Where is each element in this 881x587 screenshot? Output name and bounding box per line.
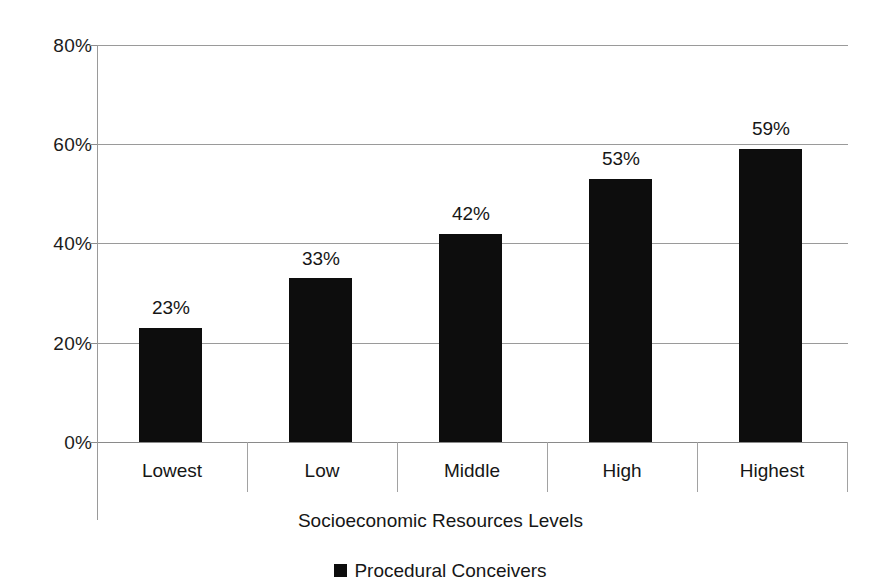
x-category-label-middle: Middle [397,461,547,480]
y-tick-label-0: 0% [20,433,92,452]
bar-value-highest: 59% [721,119,821,138]
chart-legend: Procedural Conceivers [0,561,881,580]
y-tick-label-80: 80% [20,36,92,55]
bar-value-high: 53% [571,149,671,168]
bar-highest [739,149,802,442]
bar-value-low: 33% [271,249,371,268]
legend-swatch-icon [334,564,347,577]
bar-middle [439,234,502,442]
bar-low [289,278,352,442]
y-tick-label-60: 60% [20,135,92,154]
x-axis-title: Socioeconomic Resources Levels [0,511,881,530]
gridline-60 [97,144,848,145]
bar-value-middle: 42% [421,204,521,223]
bar-chart: 80% 60% 40% 20% 0% 23% 33% 42% 53% 59% L… [0,0,881,587]
y-tick-label-20: 20% [20,334,92,353]
bar-lowest [139,328,202,442]
bar-high [589,179,652,442]
y-tick-label-40: 40% [20,234,92,253]
bar-value-lowest: 23% [121,298,221,317]
legend-item-label: Procedural Conceivers [354,561,546,580]
gridline-80 [97,45,848,46]
category-divider-5 [847,442,848,492]
x-category-label-high: High [547,461,697,480]
x-category-label-highest: Highest [697,461,847,480]
x-category-label-low: Low [247,461,397,480]
x-category-label-lowest: Lowest [97,461,247,480]
